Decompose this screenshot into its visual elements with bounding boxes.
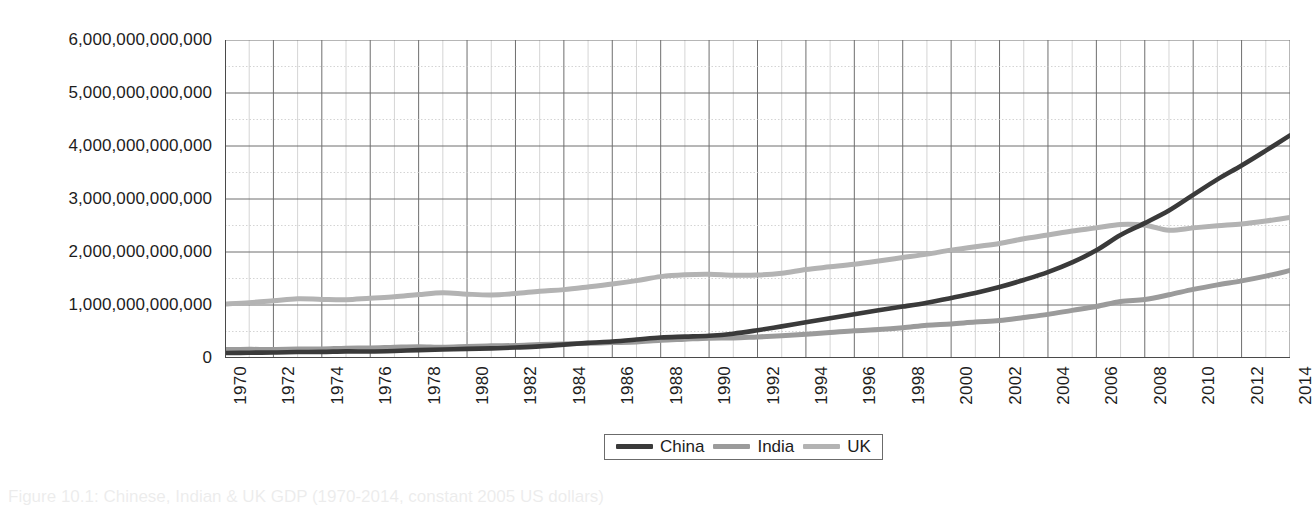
x-axis-tick-label: 2002 (1006, 366, 1026, 405)
y-axis-tick-label: 4,000,000,000,000 (0, 136, 212, 156)
y-axis-tick-label: 1,000,000,000,000 (0, 295, 212, 315)
x-axis-tick-label: 1998 (909, 366, 929, 405)
figure-caption: Figure 10.1: Chinese, Indian & UK GDP (1… (8, 487, 604, 507)
x-axis-tick-label: 1988 (667, 366, 687, 405)
x-axis-tick-label: 1986 (618, 366, 638, 405)
x-axis-tick-label: 2008 (1151, 366, 1171, 405)
chart-canvas (225, 40, 1290, 358)
x-axis-tick-label: 2000 (957, 366, 977, 405)
y-axis-tick-label: 5,000,000,000,000 (0, 83, 212, 103)
x-axis-tick-label: 1994 (812, 366, 832, 405)
x-axis-tick-label: 1996 (860, 366, 880, 405)
legend-swatch-china-icon (616, 444, 653, 449)
x-axis-tick-label: 1976 (376, 366, 396, 405)
legend-entry-india[interactable]: India (713, 438, 794, 455)
y-axis-tick-label: 6,000,000,000,000 (0, 30, 212, 50)
x-axis-tick-label: 1984 (570, 366, 590, 405)
y-axis-tick-labels: 6,000,000,000,0005,000,000,000,0004,000,… (0, 0, 212, 499)
x-axis-tick-label: 2010 (1199, 366, 1219, 405)
x-axis-tick-label: 1972 (279, 366, 299, 405)
plot-area (225, 40, 1290, 358)
x-axis-tick-label: 1982 (521, 366, 541, 405)
x-axis-tick-label: 1974 (328, 366, 348, 405)
legend-label: China (660, 438, 704, 455)
x-axis-tick-label: 1990 (715, 366, 735, 405)
legend-swatch-uk-icon (803, 444, 840, 449)
gridlines (225, 40, 1290, 358)
x-axis-tick-label: 2004 (1054, 366, 1074, 405)
legend-label: UK (847, 438, 871, 455)
y-axis-tick-label: 0 (0, 348, 212, 368)
x-axis-tick-label: 1992 (764, 366, 784, 405)
chart-legend: ChinaIndiaUK (604, 434, 883, 460)
legend-entry-china[interactable]: China (616, 438, 704, 455)
legend-entry-uk[interactable]: UK (803, 438, 871, 455)
y-axis-tick-label: 3,000,000,000,000 (0, 189, 212, 209)
legend-swatch-india-icon (713, 444, 750, 449)
x-axis-tick-label: 2006 (1102, 366, 1122, 405)
x-axis-tick-label: 2014 (1296, 366, 1314, 405)
x-axis-tick-labels: 1970197219741976197819801982198419861988… (225, 362, 1290, 434)
legend-label: India (757, 438, 794, 455)
x-axis-tick-label: 1970 (231, 366, 251, 405)
x-axis-tick-label: 2012 (1248, 366, 1268, 405)
x-axis-tick-label: 1978 (425, 366, 445, 405)
x-axis-tick-label: 1980 (473, 366, 493, 405)
y-axis-tick-label: 2,000,000,000,000 (0, 242, 212, 262)
